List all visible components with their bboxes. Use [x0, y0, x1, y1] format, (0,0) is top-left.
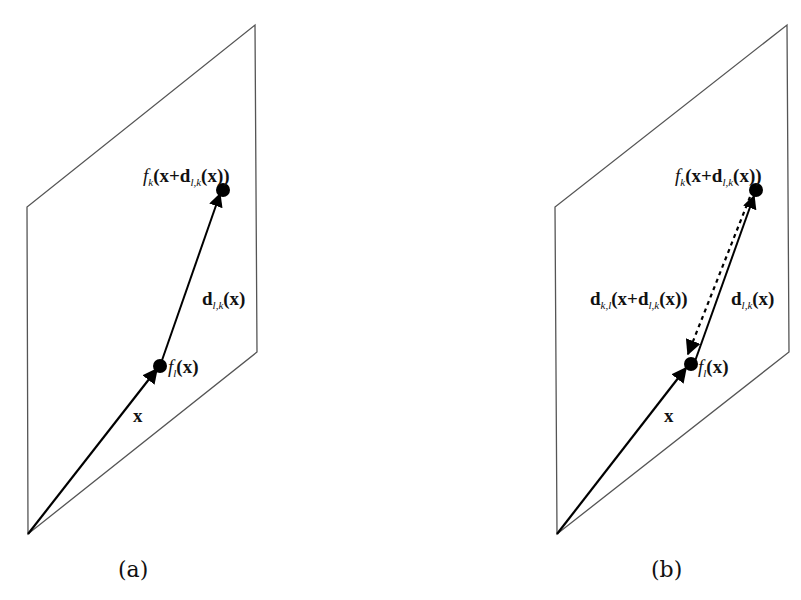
- panel-b-plane: [555, 25, 789, 534]
- d-lk-sub: l,k: [213, 299, 224, 311]
- panel-b-x-vector: [557, 368, 686, 534]
- panel-b-caption: (b): [651, 557, 682, 582]
- figure: fk(x+dl,k(x)) dl,k(x) fl(x) x (a) fk(x+d…: [0, 0, 801, 600]
- panel-a-diagram: [27, 25, 257, 534]
- d-lk-d: d: [202, 288, 213, 309]
- panel-a-fl-label: fl(x): [168, 357, 199, 379]
- panel-a-x-vector: [28, 369, 157, 534]
- panel-b-fk-label: fk(x+dl,k(x)): [675, 166, 762, 188]
- fk-d-sub: l,k: [190, 176, 201, 188]
- panel-b-d-kl-label: dk,l(x+dl,k(x)): [590, 289, 688, 311]
- d-kl-inner-sub: l,k: [649, 299, 660, 311]
- d-kl-d: d: [590, 288, 601, 309]
- panel-b-d-lk-vector: [694, 196, 754, 364]
- fk-arg-post: (x)): [201, 165, 229, 186]
- fk-d: d: [180, 165, 191, 186]
- panel-b-x-label: x: [664, 406, 674, 425]
- d-kl-arg-post: (x)): [659, 288, 687, 309]
- panel-a-plane: [27, 25, 257, 534]
- panel-a-caption: (a): [118, 557, 148, 582]
- d-lk-sub: l,k: [742, 299, 753, 311]
- panel-b-fl-point: [684, 357, 698, 371]
- fl-arg: (x): [176, 356, 198, 377]
- panel-b-fl-label: fl(x): [698, 357, 729, 379]
- fl-arg: (x): [706, 356, 728, 377]
- panel-a-d-lk-label: dl,k(x): [202, 289, 245, 311]
- fk-d: d: [712, 165, 723, 186]
- d-kl-sub: k,l: [601, 299, 612, 311]
- panel-b-d-kl-vector: [688, 197, 750, 354]
- fk-arg-pre: (x+: [153, 165, 180, 186]
- x-text: x: [133, 405, 143, 426]
- d-kl-inner-d: d: [638, 288, 649, 309]
- fk-arg-post: (x)): [733, 165, 761, 186]
- panel-a-fk-label: fk(x+dl,k(x)): [143, 166, 230, 188]
- fk-arg-pre: (x+: [685, 165, 712, 186]
- fk-d-sub: l,k: [722, 176, 733, 188]
- panel-b-d-lk-label: dl,k(x): [731, 289, 774, 311]
- d-lk-arg: (x): [752, 288, 774, 309]
- d-lk-d: d: [731, 288, 742, 309]
- panel-a-d-lk-vector: [160, 194, 220, 366]
- panel-a-fl-point: [153, 359, 167, 373]
- panel-a-x-label: x: [133, 406, 143, 425]
- d-lk-arg: (x): [223, 288, 245, 309]
- panel-b-diagram: [555, 25, 789, 534]
- d-kl-arg-pre: (x+: [611, 288, 638, 309]
- x-text: x: [664, 405, 674, 426]
